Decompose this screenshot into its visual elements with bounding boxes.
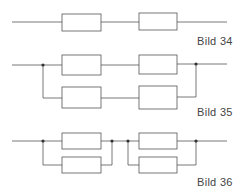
block: [62, 133, 101, 149]
figure-label: Bild 34: [197, 35, 233, 47]
junction-dot: [194, 139, 197, 142]
junction-dot: [41, 139, 44, 142]
diagram-bild-34: [12, 13, 227, 31]
junction-dot: [41, 63, 44, 66]
block: [139, 86, 177, 109]
circuit-diagrams: [0, 0, 244, 193]
junction-dot: [110, 139, 113, 142]
block: [62, 55, 101, 75]
figure-label: Bild 35: [197, 106, 233, 118]
block: [139, 157, 177, 173]
block: [62, 14, 101, 31]
figure-label: Bild 36: [197, 176, 233, 188]
block: [62, 87, 101, 108]
block: [62, 157, 101, 173]
block: [139, 55, 177, 74]
diagram-bild-36: [12, 133, 227, 173]
block: [139, 13, 177, 30]
junction-dot: [194, 62, 197, 65]
block: [139, 133, 177, 149]
junction-dot: [126, 139, 129, 142]
